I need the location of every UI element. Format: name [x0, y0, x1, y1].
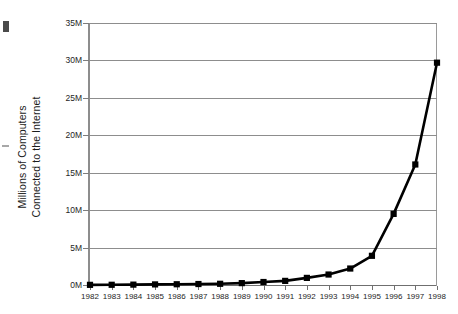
data-point-1988 [217, 281, 223, 287]
data-point-1992 [304, 275, 310, 281]
data-point-1987 [195, 281, 201, 287]
series-markers [87, 60, 440, 288]
data-point-1985 [152, 281, 158, 287]
data-point-1995 [369, 253, 375, 259]
data-point-1993 [325, 271, 331, 277]
data-point-1984 [130, 282, 136, 288]
data-point-1982 [87, 282, 93, 288]
data-point-1996 [391, 211, 397, 217]
data-point-1997 [412, 161, 418, 167]
data-point-1990 [260, 279, 266, 285]
chart-series [0, 0, 458, 314]
data-point-1991 [282, 278, 288, 284]
data-point-1983 [109, 282, 115, 288]
data-point-1986 [174, 281, 180, 287]
data-point-1989 [239, 280, 245, 286]
data-point-1998 [434, 60, 440, 66]
series-line-internet-hosts [90, 63, 437, 285]
data-point-1994 [347, 265, 353, 271]
